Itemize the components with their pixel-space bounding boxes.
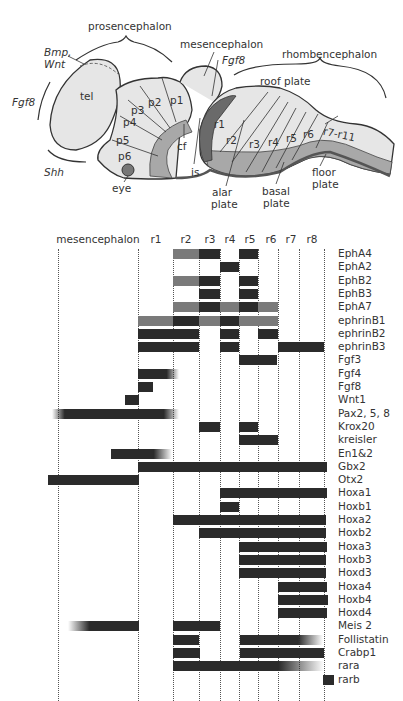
gene-label: EphA4 <box>338 247 372 260</box>
expression-bar <box>138 382 153 392</box>
expression-bar <box>220 488 327 498</box>
label-fgf8-isthmus: Fgf8 <box>222 54 245 66</box>
expression-bar <box>258 302 278 312</box>
expression-bar <box>138 462 327 472</box>
label-tel: tel <box>80 90 94 102</box>
expression-bar <box>240 635 323 645</box>
gene-row-hoxd3: Hoxd3 <box>0 566 403 579</box>
neural-tube-illustration <box>0 0 403 225</box>
column-header-r3: r3 <box>205 233 216 245</box>
gene-label: Meis 2 <box>338 619 372 632</box>
column-header-mesencephalon: mesencephalon <box>56 233 139 245</box>
gene-row-hoxa4: Hoxa4 <box>0 580 403 593</box>
gene-row-otx2: Otx2 <box>0 473 403 486</box>
gene-row-hoxa1: Hoxa1 <box>0 486 403 499</box>
expression-bar <box>239 276 258 286</box>
expression-bar <box>239 289 258 299</box>
expression-bar <box>278 342 324 352</box>
column-header-r5: r5 <box>245 233 256 245</box>
expression-bar <box>68 621 139 631</box>
label-floor-plate: plate <box>312 178 339 190</box>
gene-row-ephb2: EphB2 <box>0 274 403 287</box>
gene-row-hoxa3: Hoxa3 <box>0 540 403 553</box>
column-header-r7: r7 <box>286 233 297 245</box>
label-wnt: Wnt <box>44 58 65 70</box>
label-roof-plate: roof plate <box>260 75 311 87</box>
expression-bar <box>173 302 199 312</box>
gene-label: Gbx2 <box>338 460 366 473</box>
expression-bar <box>173 648 200 658</box>
expression-bar <box>138 316 173 326</box>
gene-row-ephrinb2: ephrinB2 <box>0 327 403 340</box>
column-header-r2: r2 <box>181 233 192 245</box>
gene-row-hoxb4: Hoxb4 <box>0 593 403 606</box>
gene-label: Krox20 <box>338 420 375 433</box>
label-p2: p2 <box>148 96 161 108</box>
gene-row-ephrinb1: ephrinB1 <box>0 314 403 327</box>
gene-label: Wnt1 <box>338 393 366 406</box>
label-r6: r6 <box>303 128 314 140</box>
gene-row-rarb: rarb <box>0 673 403 686</box>
expression-bar <box>239 568 326 578</box>
label-bmp: Bmp, <box>44 46 71 58</box>
label-cf: cf <box>177 140 186 152</box>
gene-label: Hoxb1 <box>338 500 372 513</box>
label-fgf8-anterior: Fgf8 <box>12 96 35 108</box>
gene-label: Fgf8 <box>338 380 361 393</box>
label-is: is <box>191 166 199 178</box>
gene-label: Fgf4 <box>338 367 361 380</box>
gene-label: Otx2 <box>338 473 363 486</box>
gene-row-follistatin: Follistatin <box>0 633 403 646</box>
gene-row-ephb3: EphB3 <box>0 287 403 300</box>
gene-label: ephrinB2 <box>338 327 386 340</box>
expression-bar <box>173 316 199 326</box>
expression-bar <box>199 276 220 286</box>
label-r2: r2 <box>226 134 237 146</box>
gene-label: Hoxa2 <box>338 513 371 526</box>
column-header-r6: r6 <box>266 233 277 245</box>
expression-bar <box>220 302 239 312</box>
gene-row-wnt1: Wnt1 <box>0 393 403 406</box>
label-p5: p5 <box>116 134 129 146</box>
gene-label: Follistatin <box>338 633 389 646</box>
gene-row-en12: En1&2 <box>0 447 403 460</box>
expression-bar <box>199 316 220 326</box>
label-r1: r1 <box>214 118 225 130</box>
label-p3: p3 <box>131 104 144 116</box>
expression-bar <box>48 475 139 485</box>
label-floor: floor <box>312 166 336 178</box>
expression-bar <box>239 542 327 552</box>
expression-bar <box>220 316 239 326</box>
expression-bar <box>220 342 239 352</box>
column-header-r1: r1 <box>151 233 162 245</box>
expression-bar <box>173 249 199 259</box>
gene-row-kreisler: kreisler <box>0 433 403 446</box>
gene-label: Hoxb4 <box>338 593 372 606</box>
gene-label: Hoxd4 <box>338 606 372 619</box>
expression-bar <box>239 555 326 565</box>
expression-bar <box>278 608 327 618</box>
gene-label: Hoxd3 <box>338 566 372 579</box>
expression-bar <box>173 515 326 525</box>
gene-label: ephrinB1 <box>338 314 386 327</box>
expression-bar <box>239 316 278 326</box>
expression-bar <box>239 355 277 365</box>
gene-label: rarb <box>338 673 360 686</box>
gene-expression-chart: mesencephalon r1 r2 r3 r4 r5 r6 r7 r8 Ep… <box>0 225 403 696</box>
gene-row-hoxb1: Hoxb1 <box>0 500 403 513</box>
expression-bar <box>125 395 139 405</box>
label-prosencephalon: prosencephalon <box>88 20 172 32</box>
gene-label: rara <box>338 659 360 672</box>
expression-bar <box>239 435 278 445</box>
expression-bar <box>239 302 258 312</box>
gene-label: EphA7 <box>338 300 372 313</box>
gene-row-epha2: EphA2 <box>0 260 403 273</box>
label-p1: p1 <box>170 94 183 106</box>
expression-bar <box>323 675 334 685</box>
gene-row-pax258: Pax2, 5, 8 <box>0 407 403 420</box>
gene-label: kreisler <box>338 433 377 446</box>
gene-row-hoxa2: Hoxa2 <box>0 513 403 526</box>
label-basal: basal <box>262 185 290 197</box>
expression-bar <box>52 409 179 419</box>
expression-bar <box>258 329 278 339</box>
